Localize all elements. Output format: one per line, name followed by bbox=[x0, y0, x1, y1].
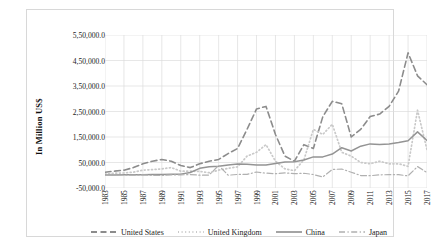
x-axis-tick: 1983 bbox=[101, 190, 110, 220]
legend-label: United States bbox=[121, 228, 164, 237]
y-axis-tick: 5,50,000.0 bbox=[73, 31, 105, 40]
x-axis-tick: 2009 bbox=[347, 190, 356, 220]
x-axis-tick: 2001 bbox=[271, 190, 280, 220]
legend-label: United Kingdom bbox=[208, 228, 262, 237]
y-axis-tick-labels: -50,000.050,000.01,50,000.02,50,000.03,5… bbox=[55, 28, 105, 196]
legend-swatch bbox=[91, 228, 117, 236]
x-axis-tick: 1987 bbox=[139, 190, 148, 220]
x-axis-tick: 1999 bbox=[253, 190, 262, 220]
y-axis-tick: 2,50,000.0 bbox=[73, 107, 105, 116]
x-axis-tick: 1985 bbox=[120, 190, 129, 220]
x-axis-tick: 1993 bbox=[196, 190, 205, 220]
y-axis-tick: 4,50,000.0 bbox=[73, 56, 105, 65]
chart-figure: In Million US$ -50,000.050,000.01,50,000… bbox=[26, 9, 394, 237]
x-axis-tick: 2005 bbox=[309, 190, 318, 220]
series-line-japan bbox=[105, 165, 427, 177]
x-axis-tick: 1997 bbox=[234, 190, 243, 220]
legend-swatch bbox=[178, 228, 204, 236]
plot-area bbox=[105, 35, 427, 188]
plot-svg bbox=[105, 35, 427, 188]
x-axis-tick: 1995 bbox=[215, 190, 224, 220]
legend-item-united-kingdom[interactable]: United Kingdom bbox=[178, 228, 262, 237]
x-axis-tick-labels: 1983198519871989199119931995199719992001… bbox=[105, 190, 427, 222]
y-axis-tick: 1,50,000.0 bbox=[73, 133, 105, 142]
series-line-united-states bbox=[105, 53, 427, 172]
legend-swatch bbox=[276, 228, 302, 236]
x-axis-tick: 2003 bbox=[290, 190, 299, 220]
x-axis-tick: 2013 bbox=[385, 190, 394, 220]
x-axis-tick: 2015 bbox=[404, 190, 413, 220]
legend-label: Japan bbox=[369, 228, 387, 237]
x-axis-tick: 1989 bbox=[158, 190, 167, 220]
legend-item-japan[interactable]: Japan bbox=[339, 228, 387, 237]
legend-label: China bbox=[306, 228, 325, 237]
y-axis-tick: 50,000.0 bbox=[78, 158, 105, 167]
x-axis-tick: 2017 bbox=[423, 190, 432, 220]
x-axis-tick: 2007 bbox=[328, 190, 337, 220]
legend-item-united-states[interactable]: United States bbox=[91, 228, 164, 237]
legend-swatch bbox=[339, 228, 365, 236]
series-line-china bbox=[105, 132, 427, 175]
x-axis-tick: 2011 bbox=[366, 190, 375, 220]
x-axis-tick: 1991 bbox=[177, 190, 186, 220]
chart-legend: United StatesUnited KingdomChinaJapan bbox=[63, 224, 415, 240]
legend-item-china[interactable]: China bbox=[276, 228, 325, 237]
y-axis-tick: 3,50,000.0 bbox=[73, 82, 105, 91]
y-axis-title: In Million US$ bbox=[31, 72, 47, 182]
